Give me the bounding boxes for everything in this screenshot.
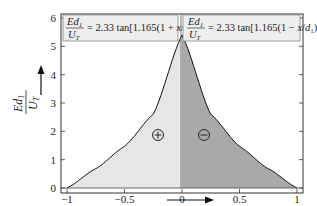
arrow-right-icon xyxy=(205,197,214,204)
x-axis-title-visible-svg xyxy=(0,0,317,206)
